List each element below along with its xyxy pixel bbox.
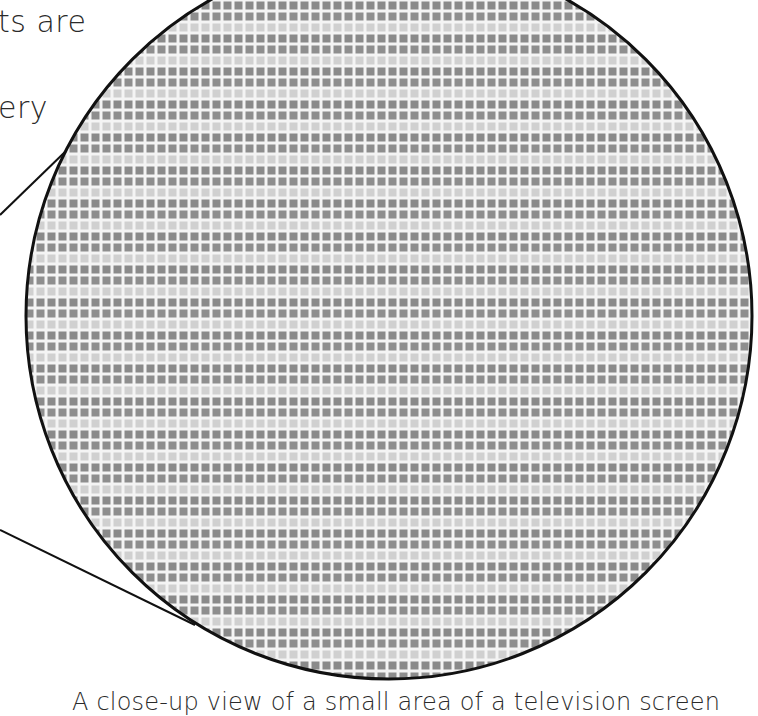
- figure-caption: A close-up view of a small area of a tel…: [72, 688, 720, 716]
- pixel-grid: [0, 0, 758, 700]
